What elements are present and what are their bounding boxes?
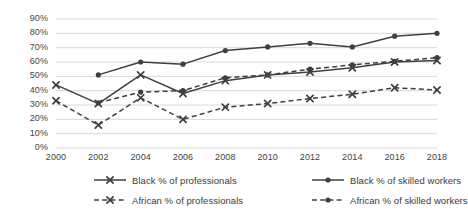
data-point-marker — [392, 34, 397, 39]
legend-label: African % of professionals — [132, 195, 243, 206]
legend-label: African % of skilled workers — [350, 195, 468, 206]
y-axis-tick-label: 50% — [8, 70, 48, 80]
data-point-marker — [96, 72, 101, 77]
legend-entry[interactable]: African % of skilled workers — [310, 192, 468, 208]
y-axis-tick-label: 40% — [8, 85, 48, 95]
data-point-marker — [138, 59, 143, 64]
x-axis-tick-label: 2010 — [248, 152, 288, 162]
y-axis-tick-label: 10% — [8, 128, 48, 138]
data-point-marker — [265, 72, 270, 77]
data-point-marker — [223, 48, 228, 53]
y-axis-tick-label: 0% — [8, 142, 48, 152]
x-axis-tick-label: 2004 — [121, 152, 161, 162]
data-point-marker — [325, 197, 330, 202]
data-point-marker — [53, 98, 59, 104]
data-point-marker — [434, 55, 439, 60]
data-point-marker — [392, 59, 397, 64]
legend-line-cross-icon — [92, 173, 128, 187]
x-axis-tick-label: 2018 — [417, 152, 457, 162]
data-point-marker — [180, 88, 185, 93]
data-point-marker — [265, 44, 270, 49]
legend-line-circle-icon — [310, 193, 346, 207]
y-axis-tick-label: 80% — [8, 27, 48, 37]
x-axis-tick-label: 2000 — [36, 152, 76, 162]
x-axis-tick-label: 2014 — [332, 152, 372, 162]
chart-legend: Black % of professionalsBlack % of skill… — [32, 172, 432, 214]
legend-entry[interactable]: Black % of skilled workers — [310, 172, 461, 188]
legend-entry[interactable]: African % of professionals — [92, 192, 243, 208]
data-point-marker — [53, 82, 59, 88]
data-point-marker — [138, 90, 143, 95]
y-axis-tick-label: 30% — [8, 99, 48, 109]
gridlines — [56, 19, 437, 148]
x-axis-tick-label: 2016 — [375, 152, 415, 162]
data-point-marker — [138, 95, 144, 101]
legend-label: Black % of skilled workers — [350, 175, 461, 186]
data-point-marker — [223, 75, 228, 80]
legend-line-cross-icon — [92, 193, 128, 207]
series-layer — [53, 31, 440, 128]
data-point-marker — [138, 72, 144, 78]
y-axis-tick-label: 90% — [8, 13, 48, 23]
y-axis-tick-label: 70% — [8, 42, 48, 52]
data-point-marker — [96, 100, 101, 105]
x-axis-tick-label: 2012 — [290, 152, 330, 162]
data-point-marker — [350, 62, 355, 67]
x-axis-tick-label: 2008 — [205, 152, 245, 162]
chart-series — [96, 31, 440, 78]
legend-label: Black % of professionals — [132, 175, 237, 186]
data-point-marker — [434, 87, 440, 93]
legend-line-circle-icon — [310, 173, 346, 187]
x-axis-tick-label: 2006 — [163, 152, 203, 162]
data-point-marker — [307, 67, 312, 72]
data-point-marker — [350, 44, 355, 49]
data-point-marker — [325, 177, 330, 182]
series-line — [98, 58, 437, 103]
legend-entry[interactable]: Black % of professionals — [92, 172, 237, 188]
data-point-marker — [307, 41, 312, 46]
y-axis-tick-label: 20% — [8, 113, 48, 123]
data-point-marker — [180, 62, 185, 67]
series-line — [56, 61, 437, 104]
y-axis-tick-label: 60% — [8, 56, 48, 66]
series-line — [98, 33, 437, 75]
data-point-marker — [95, 122, 101, 128]
chart-series — [53, 85, 440, 128]
data-point-marker — [434, 31, 439, 36]
x-axis-tick-label: 2002 — [78, 152, 118, 162]
